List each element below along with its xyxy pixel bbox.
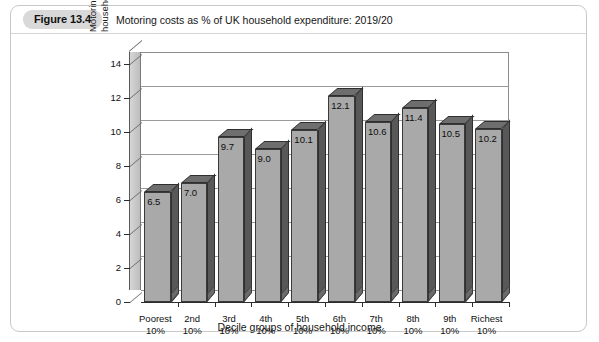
- bar: 9.0: [255, 141, 281, 302]
- bar-front-face: [144, 192, 170, 303]
- bar: 7.0: [181, 175, 207, 302]
- x-tick-mark: [509, 302, 510, 307]
- bar-value-label: 10.6: [368, 126, 387, 137]
- bar-side-face: [281, 139, 289, 302]
- x-tick-mark: [288, 302, 289, 307]
- bar: 10.2: [475, 121, 501, 302]
- bar: 12.1: [328, 88, 354, 302]
- bar-value-label: 9.0: [258, 153, 271, 164]
- bar-side-face: [502, 119, 510, 302]
- chart-plot-wrapper: Motoring costs as % of household expendi…: [11, 34, 588, 332]
- figure-title: Motoring costs as % of UK household expe…: [116, 14, 393, 26]
- bar-side-face: [171, 182, 179, 302]
- bar-value-label: 6.5: [147, 196, 160, 207]
- bar-value-label: 11.4: [405, 112, 423, 123]
- bar-value-label: 9.7: [221, 141, 234, 152]
- bar-value-label: 10.1: [294, 134, 313, 145]
- figure-header: Figure 13.4 Motoring costs as % of UK ho…: [11, 6, 586, 34]
- bar-front-face: [402, 108, 428, 302]
- x-tick-mark: [251, 302, 252, 307]
- y-tick-label: 12: [99, 92, 121, 103]
- bar: 10.5: [439, 116, 465, 303]
- y-axis-wall-top-edge: [129, 40, 142, 52]
- figure-card: Figure 13.4 Motoring costs as % of UK ho…: [10, 5, 587, 332]
- bar-side-face: [391, 112, 399, 302]
- bar-side-face: [207, 173, 215, 302]
- y-tick-label: 8: [99, 160, 121, 171]
- bar-value-label: 10.2: [478, 133, 497, 144]
- x-tick-mark: [215, 302, 216, 307]
- bar-side-face: [318, 121, 326, 302]
- bar-front-face: [291, 130, 317, 302]
- bar-front-face: [475, 129, 501, 302]
- x-tick-mark: [435, 302, 436, 307]
- bar: 10.6: [365, 114, 391, 302]
- bar-value-label: 10.5: [442, 128, 461, 139]
- bar-front-face: [255, 149, 281, 302]
- bar-value-label: 12.1: [331, 100, 350, 111]
- x-tick-mark: [362, 302, 363, 307]
- bar-side-face: [355, 87, 363, 302]
- y-tick-label: 4: [99, 228, 121, 239]
- figure-number-badge: Figure 13.4: [23, 10, 102, 29]
- y-tick-label: 2: [99, 262, 121, 273]
- x-tick-mark: [399, 302, 400, 307]
- x-tick-mark: [472, 302, 473, 307]
- bar: 9.7: [218, 129, 244, 302]
- bar-value-label: 7.0: [184, 187, 197, 198]
- bar-side-face: [428, 99, 436, 302]
- bar-front-face: [439, 124, 465, 303]
- gridline: [141, 86, 509, 87]
- x-tick-mark: [325, 302, 326, 307]
- x-axis-title: Decile groups of household income: [11, 321, 588, 333]
- y-tick-label: 0: [99, 296, 121, 307]
- bar-side-face: [465, 114, 473, 302]
- x-tick-mark: [178, 302, 179, 307]
- y-tick-label: 6: [99, 194, 121, 205]
- bar: 10.1: [291, 122, 317, 302]
- bar-front-face: [181, 183, 207, 302]
- y-tick-label: 10: [99, 126, 121, 137]
- bar-front-face: [218, 137, 244, 302]
- bar-front-face: [328, 96, 354, 302]
- bar-front-face: [365, 122, 391, 302]
- bar: 6.5: [144, 184, 170, 303]
- bar: 11.4: [402, 100, 428, 302]
- y-tick-label: 14: [99, 58, 121, 69]
- bar-side-face: [244, 128, 252, 302]
- chart-area: 6.57.09.79.010.112.110.611.410.510.2 Poo…: [129, 52, 521, 310]
